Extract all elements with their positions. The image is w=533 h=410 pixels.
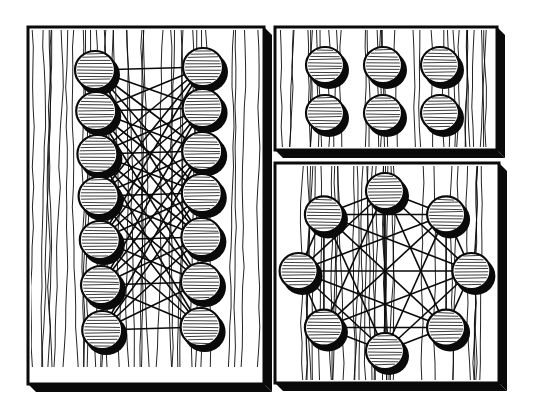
top-right-board — [275, 27, 505, 158]
bottom-right-board — [275, 163, 507, 391]
left-board — [28, 27, 272, 392]
peg-board-illustration — [0, 0, 533, 410]
